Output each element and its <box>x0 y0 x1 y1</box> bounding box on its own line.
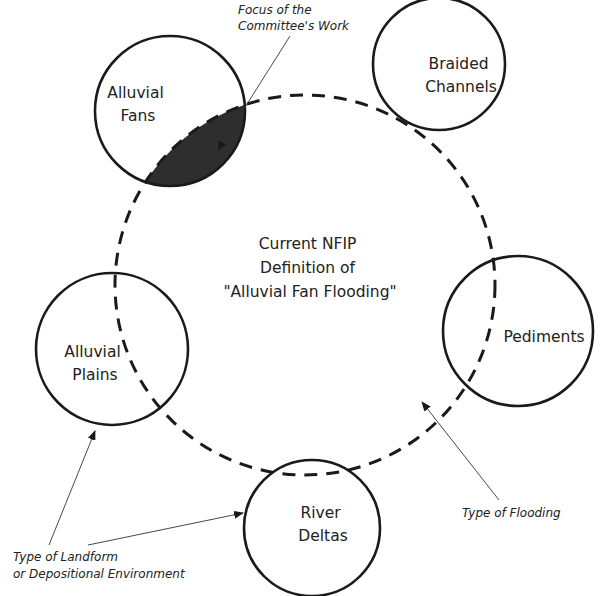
landform-leader-arrow-plains <box>49 431 95 545</box>
landform-leader-arrow-deltas <box>88 513 243 545</box>
flooding-leader-arrow <box>422 402 499 500</box>
focus-annotation: Focus of the Committee's Work <box>238 3 350 33</box>
braided-channels-label: Braided Channels <box>425 55 497 96</box>
river-deltas-label: River Deltas <box>298 504 347 545</box>
alluvial-fans-label: Alluvial Fans <box>107 84 168 125</box>
landform-annotation: Type of Landform or Depositional Environ… <box>13 550 186 581</box>
nfip-definition-label: Current NFIP Definition of "Alluvial Fan… <box>223 235 396 301</box>
flooding-annotation: Type of Flooding <box>462 506 561 520</box>
pediments-label: Pediments <box>503 328 584 346</box>
alluvial-fan-diagram: Alluvial Fans Braided Channels Pediments… <box>0 0 605 596</box>
alluvial-plains-label: Alluvial Plains <box>64 343 125 384</box>
focus-leader-arrow <box>218 36 290 150</box>
